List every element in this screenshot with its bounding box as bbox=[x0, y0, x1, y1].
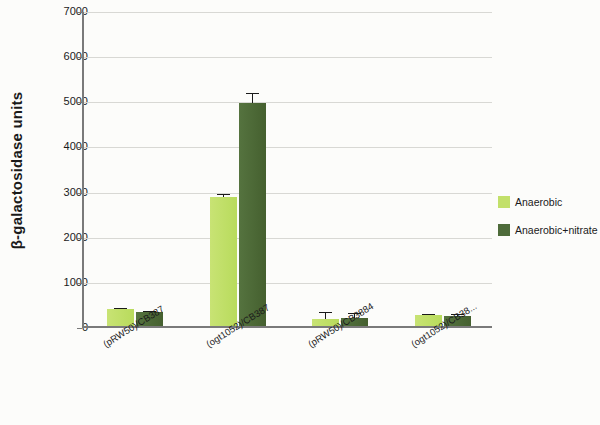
bar-chart: β-galactosidase units 010002000300040005… bbox=[0, 0, 600, 425]
gridline bbox=[84, 147, 492, 148]
error-bar-cap bbox=[422, 314, 435, 315]
error-bar bbox=[422, 314, 435, 315]
legend-item: Anaerobic bbox=[498, 196, 600, 208]
legend-swatch bbox=[498, 196, 510, 208]
chart-legend: AnaerobicAnaerobic+nitrate bbox=[498, 196, 600, 252]
gridline bbox=[84, 283, 492, 284]
error-bar-cap bbox=[114, 308, 127, 309]
error-bar bbox=[217, 194, 230, 197]
error-bar-cap bbox=[217, 194, 230, 195]
legend-label: Anaerobic+nitrate bbox=[515, 224, 598, 236]
y-axis-title-text: β-galactosidase units bbox=[9, 91, 26, 249]
gridline bbox=[84, 57, 492, 58]
gridline bbox=[84, 193, 492, 194]
error-bar bbox=[246, 93, 259, 103]
legend-swatch bbox=[498, 224, 510, 236]
legend-label: Anaerobic bbox=[515, 196, 562, 208]
error-bar-line bbox=[252, 93, 253, 103]
gridline bbox=[84, 12, 492, 13]
legend-item: Anaerobic+nitrate bbox=[498, 224, 600, 236]
y-axis-title: β-galactosidase units bbox=[2, 0, 32, 340]
plot-area bbox=[82, 12, 492, 328]
gridline bbox=[84, 238, 492, 239]
bar bbox=[239, 103, 266, 326]
error-bar-line bbox=[325, 312, 326, 319]
error-bar bbox=[319, 312, 332, 319]
error-bar-cap bbox=[319, 312, 332, 313]
error-bar-cap bbox=[246, 93, 259, 94]
bar bbox=[210, 197, 237, 326]
error-bar bbox=[114, 308, 127, 310]
y-axis-tick-mark bbox=[77, 328, 82, 329]
gridline bbox=[84, 102, 492, 103]
